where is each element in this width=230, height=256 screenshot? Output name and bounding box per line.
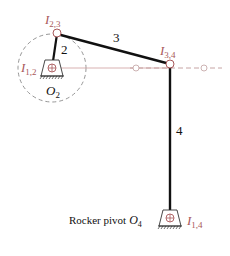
link-4-label: 4 [176, 123, 183, 138]
phantom-point-left-icon [133, 65, 139, 71]
phantom-point-right-icon [201, 65, 207, 71]
i23-label: I2,3 [44, 12, 61, 29]
i12-label: I1,2 [20, 60, 37, 77]
linkage-svg: 2 3 4 I2,3 I1,2 I3,4 I1,4 O2 Rocker pivo… [0, 0, 230, 256]
i14-label: I1,4 [186, 213, 203, 230]
link-2-label: 2 [61, 42, 68, 57]
ground-pivot-o2-icon [40, 60, 64, 79]
joint-i34-icon [166, 60, 174, 68]
linkage-diagram: 2 3 4 I2,3 I1,2 I3,4 I1,4 O2 Rocker pivo… [0, 0, 230, 256]
rocker-pivot-label: Rocker pivotO4 [69, 213, 142, 229]
i34-label: I3,4 [159, 43, 176, 60]
link-3-label: 3 [113, 30, 120, 45]
o2-label: O2 [46, 83, 60, 100]
ground-pivot-o4-icon [158, 210, 182, 229]
joint-i23-icon [53, 29, 61, 37]
